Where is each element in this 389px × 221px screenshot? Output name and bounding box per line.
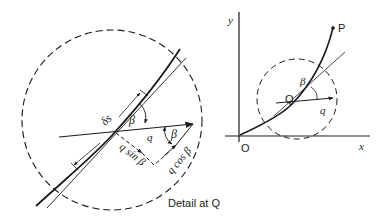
x-axis-label: x [358, 140, 364, 152]
ds-tick-upper [140, 90, 148, 96]
q-cos-component [164, 145, 176, 156]
beta-arc-overview [311, 87, 317, 99]
y-axis-label: y [227, 14, 233, 26]
beta-label-overview: β [299, 75, 306, 87]
overview-diagram: y x O P Q β q [225, 12, 370, 154]
beta-label-right: β [170, 127, 177, 141]
ds-dimension-lower [74, 143, 100, 165]
streamline-curve-overview [240, 28, 333, 135]
beta-label-upper: β [128, 113, 135, 127]
origin-label: O [241, 142, 250, 154]
point-Q-label: Q [285, 93, 294, 105]
q-label: q [147, 131, 153, 143]
figure: δs β q β q sin β q cos β Detail at Q y x… [0, 0, 389, 221]
point-P-marker [331, 26, 335, 30]
ds-tick-lower [71, 163, 78, 170]
ds-label: δs [98, 111, 115, 128]
point-P-label: P [338, 22, 345, 34]
diagram-canvas: δs β q β q sin β q cos β Detail at Q y x… [0, 0, 389, 221]
q-label-overview: q [320, 104, 326, 116]
detail-diagram: δs β q β q sin β q cos β Detail at Q [22, 30, 220, 210]
q-cos-line [176, 124, 193, 145]
detail-caption: Detail at Q [168, 197, 220, 209]
q-sin-beta-label: q sin β [118, 140, 149, 168]
q-cos-beta-label: q cos β [164, 144, 194, 176]
